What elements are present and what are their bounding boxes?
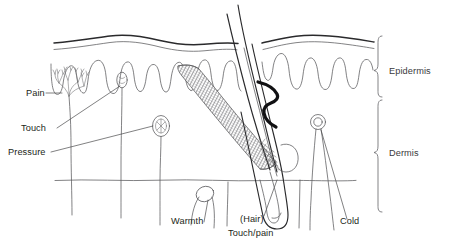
layer-braces xyxy=(374,36,382,212)
dermal-fiber xyxy=(227,182,228,226)
surface-inner-line-right xyxy=(263,42,374,50)
leader-touch xyxy=(57,86,120,128)
skin-cross-section-diagram: Pain Touch Pressure Warmth (Hair) Touch/… xyxy=(0,0,451,246)
krause-outer-ring xyxy=(311,115,326,130)
pain-nerve-fiber xyxy=(69,96,72,215)
pain-tip xyxy=(81,69,84,72)
pain-branch xyxy=(69,86,84,96)
pain-twig xyxy=(68,70,71,80)
touch-receptor-meissner-corpuscle xyxy=(117,72,127,218)
dermis-brace xyxy=(374,100,382,212)
leader-warmth xyxy=(204,200,208,222)
pain-tip xyxy=(62,70,65,74)
pain-twig xyxy=(82,76,84,86)
touch-nerve-fiber xyxy=(121,88,122,218)
label-touch: Touch xyxy=(21,123,46,133)
pain-tip xyxy=(53,70,56,74)
label-cold: Cold xyxy=(340,216,359,226)
touch-corpuscle-body xyxy=(117,72,127,88)
dermal-fiber xyxy=(299,180,300,228)
skin-surface-lines xyxy=(54,35,374,51)
pain-tip xyxy=(70,67,73,70)
label-touch-pain: Touch/pain xyxy=(228,228,273,238)
label-epidermis: Epidermis xyxy=(389,66,431,76)
label-dermis: Dermis xyxy=(389,148,419,158)
skin-diagram-canvas: Pain Touch Pressure Warmth (Hair) Touch/… xyxy=(0,0,451,246)
label-pressure: Pressure xyxy=(8,147,46,157)
surface-outer-line-left xyxy=(54,35,238,45)
label-hair: (Hair) xyxy=(240,214,264,224)
follicle-base-papilla xyxy=(272,213,281,218)
cold-nerve-fiber-secondary xyxy=(321,129,334,230)
hair-follicle-nerve-ending xyxy=(258,82,278,127)
pressure-receptor-pacinian-corpuscle xyxy=(153,116,170,226)
leader-pressure xyxy=(51,126,153,152)
pain-twig xyxy=(59,74,63,83)
cold-receptor-krause-end-bulb xyxy=(310,115,334,231)
rete-ridge-line-left xyxy=(51,60,191,94)
sebaceous-gland-outline xyxy=(275,144,298,172)
warmth-nerve-fiber-secondary xyxy=(212,197,214,228)
epidermis-brace xyxy=(374,36,382,97)
label-pain: Pain xyxy=(26,88,45,98)
pain-twig xyxy=(84,75,87,86)
leader-cold xyxy=(321,130,347,219)
cold-nerve-fiber xyxy=(310,129,316,230)
pacinian-core-detail xyxy=(157,119,165,133)
pain-branch xyxy=(59,83,69,96)
pressure-nerve-fiber xyxy=(160,137,161,226)
pain-tip xyxy=(57,69,60,73)
leader-hair-touch-pain xyxy=(264,180,277,216)
rete-ridge-line-right xyxy=(262,53,373,89)
krause-inner-ring xyxy=(314,118,322,126)
free-nerve-endings-pain-receptor xyxy=(53,67,89,215)
label-warmth: Warmth xyxy=(171,216,203,226)
dermis-lower-boundary xyxy=(55,180,356,181)
